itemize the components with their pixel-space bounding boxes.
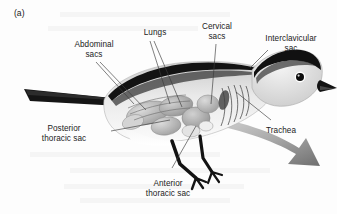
label-cervical-sacs: Cervical sacs <box>191 22 243 41</box>
figure-panel: (a) Abdominal sacs Lungs Cervical sacs I… <box>0 0 337 214</box>
label-anterior-thoracic-sac: Anterior thoracic sac <box>128 179 208 198</box>
panel-label: (a) <box>14 8 25 18</box>
label-posterior-thoracic-sac: Posterior thoracic sac <box>24 124 104 143</box>
label-abdominal-sacs: Abdominal sacs <box>63 40 125 59</box>
label-lungs: Lungs <box>133 28 177 38</box>
bird-head <box>252 50 337 107</box>
label-trachea: Trachea <box>266 126 314 136</box>
label-interclavicular-sac: Interclavicular sac <box>251 34 331 53</box>
